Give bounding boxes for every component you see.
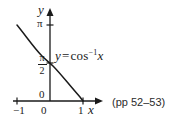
y-tick-label-pi-half: π 2 xyxy=(36,53,48,76)
inverse-cosine-graph-figure: y x π π 2 0 −1 0 1 y=cos−1x (pp 52–53) xyxy=(0,0,173,123)
pi-half-numerator: π xyxy=(36,53,48,64)
y-axis-arrowhead xyxy=(47,8,54,16)
equation-label: y=cos−1x xyxy=(55,49,103,62)
equation-operator: = xyxy=(61,48,71,63)
x-tick-label-minus-one: −1 xyxy=(13,105,25,116)
y-tick-label-pi: π xyxy=(37,18,43,29)
x-tick-label-zero: 0 xyxy=(41,105,47,116)
equation-argument: x xyxy=(97,48,103,63)
x-tick-label-one: 1 xyxy=(78,105,84,116)
equation-function: cos xyxy=(71,48,89,63)
x-axis-label: x xyxy=(88,103,94,116)
y-tick-label-zero: 0 xyxy=(39,89,45,100)
y-axis-label: y xyxy=(38,3,44,16)
page-reference-note: (pp 52–53) xyxy=(112,97,165,108)
pi-half-denominator: 2 xyxy=(36,66,48,77)
x-axis-arrowhead xyxy=(95,98,103,105)
